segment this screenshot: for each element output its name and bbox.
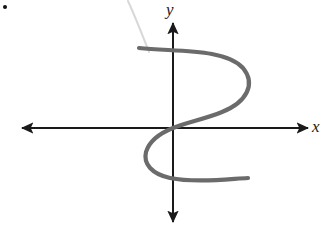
graph-canvas xyxy=(0,0,330,229)
x-axis-label: x xyxy=(312,118,320,135)
y-axis-label: y xyxy=(166,1,174,18)
graph-figure: y x xyxy=(0,0,330,229)
faint-pencil-stroke-icon xyxy=(128,1,149,52)
sideways-s-curve xyxy=(139,48,249,180)
